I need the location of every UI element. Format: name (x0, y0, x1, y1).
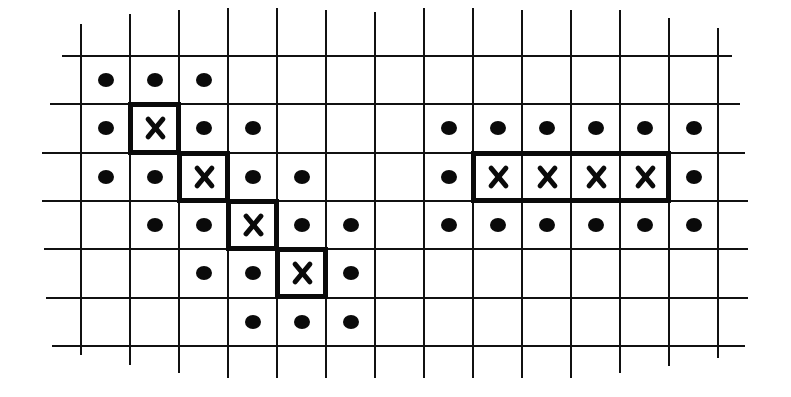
dot-marker (98, 73, 114, 87)
dot-marker (196, 218, 212, 232)
dot-marker (294, 315, 310, 329)
grid-horizontal-line (46, 297, 748, 299)
dot-marker (441, 121, 457, 135)
grid-vertical-line (325, 10, 327, 378)
dot-marker (686, 170, 702, 184)
cell-outline (275, 247, 328, 299)
dot-marker (686, 121, 702, 135)
dot-marker (637, 218, 653, 232)
dot-marker (343, 218, 359, 232)
grid-vertical-line (80, 24, 82, 355)
grid-horizontal-line (52, 345, 745, 347)
grid-vertical-line (129, 14, 131, 365)
dot-marker (539, 121, 555, 135)
dot-marker (637, 121, 653, 135)
dot-marker (147, 218, 163, 232)
dot-marker (196, 73, 212, 87)
cell-outline (128, 102, 181, 154)
grid-vertical-line (374, 12, 376, 378)
dot-marker (490, 121, 506, 135)
dot-marker (245, 315, 261, 329)
dot-marker (343, 266, 359, 280)
dot-marker (441, 218, 457, 232)
cell-outline (226, 199, 279, 251)
dot-marker (98, 121, 114, 135)
dot-marker (294, 218, 310, 232)
dot-marker (294, 170, 310, 184)
dot-marker (147, 170, 163, 184)
dot-marker (196, 266, 212, 280)
grid-horizontal-line (62, 55, 732, 57)
row-outline (471, 151, 671, 203)
dot-marker (245, 170, 261, 184)
grid-diagram (0, 0, 791, 397)
dot-marker (588, 121, 604, 135)
dot-marker (147, 73, 163, 87)
dot-marker (343, 315, 359, 329)
grid-horizontal-line (44, 248, 748, 250)
dot-marker (686, 218, 702, 232)
dot-marker (539, 218, 555, 232)
dot-marker (245, 266, 261, 280)
dot-marker (588, 218, 604, 232)
dot-marker (245, 121, 261, 135)
dot-marker (196, 121, 212, 135)
grid-vertical-line (717, 28, 719, 358)
dot-marker (98, 170, 114, 184)
dot-marker (490, 218, 506, 232)
dot-marker (441, 170, 457, 184)
grid-vertical-line (276, 8, 278, 378)
grid-vertical-line (423, 8, 425, 378)
cell-outline (177, 151, 230, 203)
